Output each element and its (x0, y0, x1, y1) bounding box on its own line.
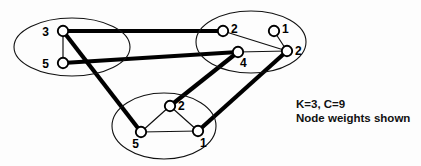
node-weight-label: 4 (240, 56, 247, 70)
node-weight-label: 1 (282, 22, 289, 36)
node-weight-label: 2 (178, 99, 185, 113)
node-weight-label: 5 (132, 137, 139, 151)
graph-node: 4 (233, 47, 247, 70)
node-circle (218, 26, 228, 36)
cut-edge (170, 52, 238, 106)
cluster-boundary-right (196, 11, 306, 73)
graph-node: 1 (193, 126, 207, 150)
intra-edge (238, 51, 287, 52)
node-weight-label: 3 (42, 25, 49, 39)
cut-edge (63, 31, 141, 132)
graph-partition-diagram: 352142251 K=3, C=9 Node weights shown (0, 0, 421, 166)
cut-edge (63, 52, 238, 63)
node-weight-label: 5 (42, 57, 49, 71)
graph-canvas: 352142251 K=3, C=9 Node weights shown (0, 0, 421, 166)
node-weight-label: 2 (295, 44, 302, 58)
graph-node: 5 (132, 127, 146, 151)
node-circle (165, 101, 175, 111)
node-weight-label: 1 (200, 136, 207, 150)
caption-layer: K=3, C=9 Node weights shown (296, 98, 410, 124)
graph-node: 1 (269, 22, 289, 36)
cluster-boundary-left (14, 18, 130, 76)
cut-edge-layer (63, 31, 287, 132)
graph-node: 5 (42, 57, 68, 71)
node-weight-label: 2 (231, 22, 238, 36)
node-circle (193, 126, 203, 136)
caption-line-k-c: K=3, C=9 (296, 98, 345, 110)
node-circle (136, 127, 146, 137)
graph-node: 2 (218, 22, 238, 36)
intra-edge (141, 131, 198, 132)
node-circle (58, 58, 68, 68)
node-circle (269, 26, 279, 36)
node-circle (58, 26, 68, 36)
graph-node: 3 (42, 25, 68, 39)
node-circle (282, 46, 292, 56)
graph-node: 2 (282, 44, 302, 58)
caption-line-node-weights: Node weights shown (296, 112, 410, 124)
